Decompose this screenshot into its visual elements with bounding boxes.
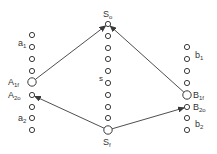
- node-left-0-circle-icon: [29, 32, 34, 37]
- label-s: s: [99, 74, 103, 83]
- node-B2o-circle-icon: [184, 104, 189, 109]
- node-A1f-circle-icon: [28, 78, 36, 86]
- node-Sf-circle-icon: [104, 126, 112, 134]
- node-middle-8-circle-icon: [105, 115, 110, 120]
- label-B1f: B1f: [193, 90, 204, 101]
- arrow-A1f-to-S0: [35, 26, 105, 80]
- node-middle-4-circle-icon: [105, 68, 110, 73]
- node-middle-7-circle-icon: [105, 104, 110, 109]
- arrow-B1f-to-S0: [110, 26, 184, 92]
- node-right-7-circle-icon: [184, 127, 189, 132]
- label-b2: b2: [195, 119, 204, 130]
- node-middle-5-circle-icon: [105, 80, 110, 85]
- arrows-group: [35, 26, 184, 129]
- node-middle-2-circle-icon: [105, 45, 110, 50]
- node-S0-circle-icon: [105, 21, 110, 26]
- node-right-0-circle-icon: [184, 44, 189, 49]
- node-A2o-circle-icon: [29, 92, 34, 97]
- label-A1f: A1f: [8, 77, 19, 88]
- node-left-6-circle-icon: [29, 104, 34, 109]
- label-a1: a1: [18, 38, 27, 49]
- node-middle-1-circle-icon: [105, 33, 110, 38]
- node-left-8-circle-icon: [29, 127, 34, 132]
- node-left-3-circle-icon: [29, 68, 34, 73]
- arrow-Sf-to-B2o: [112, 108, 184, 129]
- state-transition-diagram: a1 A1f A2o a2 So s Sf b1 B1f B2o b2: [0, 0, 217, 154]
- label-S0: So: [103, 9, 113, 20]
- node-middle-6-circle-icon: [105, 92, 110, 97]
- node-left-1-circle-icon: [29, 44, 34, 49]
- node-right-2-circle-icon: [184, 68, 189, 73]
- label-b1: b1: [195, 50, 204, 61]
- label-A2o: A2o: [8, 90, 21, 101]
- nodes-group: [28, 21, 191, 134]
- node-right-3-circle-icon: [184, 80, 189, 85]
- node-left-2-circle-icon: [29, 56, 34, 61]
- node-right-6-circle-icon: [184, 115, 189, 120]
- node-left-7-circle-icon: [29, 115, 34, 120]
- node-right-1-circle-icon: [184, 56, 189, 61]
- node-middle-3-circle-icon: [105, 56, 110, 61]
- label-Sf: Sf: [103, 137, 111, 148]
- node-B1f-circle-icon: [183, 91, 191, 99]
- label-B2o: B2o: [193, 102, 206, 113]
- arrow-Sf-to-A2o: [35, 96, 104, 128]
- label-a2: a2: [18, 113, 27, 124]
